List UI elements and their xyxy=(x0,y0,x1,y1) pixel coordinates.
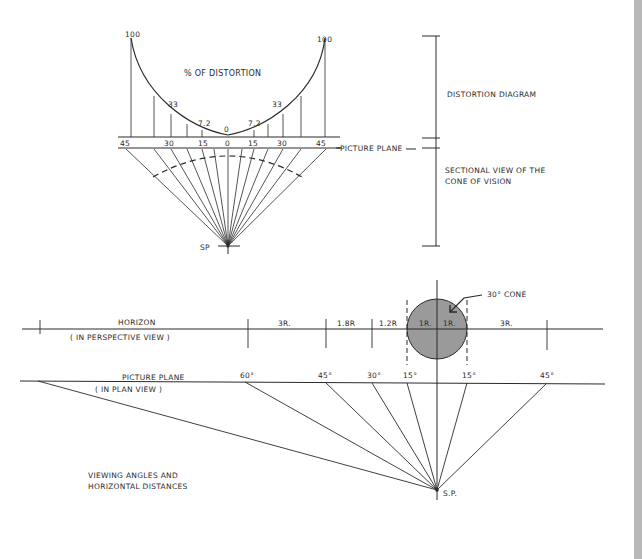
cone-fan-line xyxy=(214,149,228,246)
curve-label-right-15: 7.2 xyxy=(248,119,261,128)
distortion-title: % OF DISTORTION xyxy=(184,69,261,78)
caption-line2: HORIZONTAL DISTANCES xyxy=(88,482,188,491)
page-edge-strip xyxy=(634,0,642,559)
viewing-angle-label: 30° xyxy=(367,371,381,380)
plan-station-point-marker xyxy=(435,488,439,492)
station-point-label: SP xyxy=(200,243,210,252)
angle-label: 30 xyxy=(164,139,174,148)
horizon-sublabel: ( IN PERSPECTIVE VIEW ) xyxy=(70,333,170,342)
cone-fan-line xyxy=(228,149,283,246)
segment-label: 3R. xyxy=(500,319,513,328)
curve-label-right-45: 100 xyxy=(317,35,332,44)
cone-fan-line xyxy=(126,149,228,246)
plan-picture-plane-line xyxy=(20,381,605,384)
curve-label-left-45: 100 xyxy=(125,30,140,39)
cone-section-label-line2: CONE OF VISION xyxy=(445,177,512,186)
angle-label: 0 xyxy=(225,139,230,148)
cone-fan-line xyxy=(228,149,301,246)
curve-label-center: 0 xyxy=(224,125,229,134)
cone-section-label-line1: SECTIONAL VIEW OF THE xyxy=(445,166,545,175)
cone-of-vision-fan xyxy=(126,149,326,246)
distortion-ordinates xyxy=(131,38,325,137)
cone-fan-line xyxy=(154,149,228,246)
section-bracket xyxy=(422,36,440,246)
horizontal-distances-diagram: 3R. 1.8R 1.2R 1R. 1R. 3R. 30° CONE HORIZ… xyxy=(20,280,605,500)
station-point-marker xyxy=(226,244,229,247)
perspective-diagram-sheet: 100 33 7.2 0 7.2 33 100 % OF DISTORTION … xyxy=(0,0,642,559)
angle-label: 45 xyxy=(120,139,130,148)
distortion-diagram-label: DISTORTION DIAGRAM xyxy=(447,90,536,99)
angle-label: 15 xyxy=(198,139,208,148)
cone-fan-line xyxy=(228,149,326,246)
cone-fan-line xyxy=(187,149,228,246)
segment-label: 1.2R xyxy=(379,319,397,328)
viewing-angle-label: 45° xyxy=(318,371,332,380)
caption-line1: VIEWING ANGLES AND xyxy=(88,471,178,480)
cone-label: 30° CONE xyxy=(487,290,527,299)
cone-fan-line xyxy=(228,149,254,246)
horizon-label: HORIZON xyxy=(118,318,156,327)
segment-label: 1R. xyxy=(443,319,456,328)
viewing-angle-label: 15° xyxy=(403,371,417,380)
distortion-curve xyxy=(131,38,325,135)
segment-label: 1.8R xyxy=(337,319,355,328)
distortion-diagram: 100 33 7.2 0 7.2 33 100 % OF DISTORTION … xyxy=(118,30,416,153)
curve-label-left-15: 7.2 xyxy=(198,119,211,128)
plan-picture-plane-sublabel: ( IN PLAN VIEW ) xyxy=(95,385,162,394)
cone-of-vision-arc xyxy=(153,156,302,177)
angle-label: 15 xyxy=(248,139,258,148)
viewing-angle-label: 15° xyxy=(462,371,476,380)
segment-label: 1R. xyxy=(419,319,432,328)
segment-label: 3R. xyxy=(278,319,291,328)
cone-fan-line xyxy=(202,149,228,246)
picture-plane-label: PICTURE PLANE xyxy=(340,144,403,153)
plan-station-point-label: S.P. xyxy=(443,489,457,498)
angle-label: 30 xyxy=(277,139,287,148)
viewing-angle-label: 45° xyxy=(540,371,554,380)
curve-label-left-30: 33 xyxy=(168,100,178,109)
cone-fan-line xyxy=(228,149,242,246)
cone-fan-line xyxy=(171,149,228,246)
curve-label-right-30: 33 xyxy=(272,100,282,109)
plan-picture-plane-label: PICTURE PLANE xyxy=(122,373,185,382)
cone-fan-line xyxy=(228,149,268,246)
angle-label: 45 xyxy=(316,139,326,148)
diagram-canvas: 100 33 7.2 0 7.2 33 100 % OF DISTORTION … xyxy=(0,0,642,559)
viewing-angle-label: 60° xyxy=(240,371,254,380)
